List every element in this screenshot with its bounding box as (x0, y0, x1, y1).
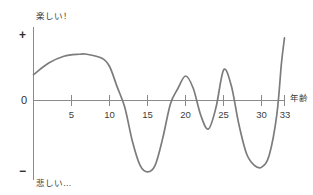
x-tick-label-5: 5 (60, 110, 84, 120)
y-axis-top-label: 楽しい！ (36, 12, 72, 21)
x-tick-label-10: 10 (98, 110, 122, 120)
x-tick-label-15: 15 (136, 110, 160, 120)
y-axis-positive-symbol: + (19, 29, 26, 41)
y-axis-zero-label: 0 (21, 95, 27, 106)
x-tick-label-33: 33 (273, 110, 297, 120)
y-axis-bottom-label: 悲しい… (36, 179, 72, 188)
x-tick-label-25: 25 (212, 110, 236, 120)
x-tick-label-30: 30 (250, 110, 274, 120)
x-axis-label: 年齢 (290, 94, 308, 103)
x-tick-label-20: 20 (174, 110, 198, 120)
mood-over-age-chart: 楽しい！ 悲しい… + 0 − 5 10 15 20 25 30 33 年齢 (0, 0, 313, 195)
y-axis-negative-symbol: − (19, 165, 26, 177)
chart-canvas (0, 0, 313, 195)
